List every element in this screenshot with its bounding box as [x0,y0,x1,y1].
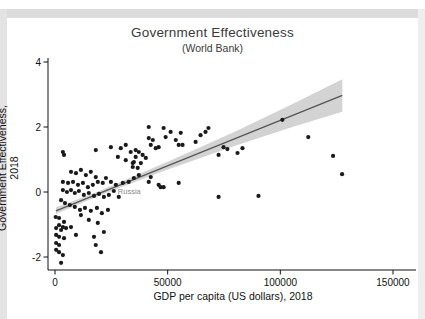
scatter-point [203,130,207,134]
scatter-point [96,180,100,184]
y-tick-label: 4 [35,57,41,68]
scatter-point [87,218,91,222]
scatter-point [136,166,140,170]
scatter-point [96,221,100,225]
scatter-point [73,191,77,195]
x-tick-label: 150000 [376,277,410,288]
scatter-point [82,193,86,197]
scatter-point [79,213,83,217]
scatter-point [174,138,178,142]
scatter-point [76,183,80,187]
scatter-point [147,136,151,140]
scatter-point [162,185,166,189]
scatter-point [104,176,108,180]
scatter-point [89,209,93,213]
scatter-point [331,154,335,158]
scatter-point [101,181,105,185]
scatter-point [168,130,172,134]
scatter-point [221,145,225,149]
scatter-point [177,181,181,185]
y-tick-label: -2 [32,252,41,263]
scatter-point [94,243,98,247]
scatter-point [164,135,168,139]
scatter-point [107,193,111,197]
scatter-point [92,235,96,239]
scatter-point [132,176,136,180]
scatter-point [79,168,83,172]
scatter-point [81,181,85,185]
scatter-point [66,181,70,185]
scatter-point [64,226,68,230]
scatter-point [78,208,82,212]
scatter-point [69,225,73,229]
scatter-point [177,143,181,147]
y-tick-label: 2 [35,122,41,133]
scatter-point [71,180,75,184]
chart-title: Government Effectiveness [0,25,425,40]
scatter-point [129,150,133,154]
scatter-point [99,250,103,254]
scatter-point [94,148,98,152]
scatter-point [132,160,136,164]
scatter-point [54,226,58,230]
scatter-point [57,216,61,220]
scatter-point [194,140,198,144]
scatter-point [92,194,96,198]
scatter-point [97,192,101,196]
scatter-point [137,173,141,177]
scatter-point [235,151,239,155]
scatter-point [162,126,166,130]
scatter-point [62,220,66,224]
scatter-point [61,188,65,192]
scatter-point [198,133,202,137]
scatter-point [83,206,87,210]
scatter-point [134,155,138,159]
scatter-point [124,158,128,162]
scatter-point [59,228,63,232]
scatter-point [340,172,344,176]
scatter-point [59,198,63,202]
scatter-point [57,243,61,247]
scatter-point [100,211,104,215]
scatter-point [68,203,72,207]
scatter-point [86,185,90,189]
scatter-point [147,180,151,184]
x-tick-label: 100000 [264,277,298,288]
scatter-point [63,201,67,205]
scatter-point [180,143,184,147]
scatter-point [69,188,73,192]
scatter-point [62,236,66,240]
scatter-point [137,150,141,154]
scatter-point [306,135,310,139]
scatter-point [109,145,113,149]
scatter-point [65,190,69,194]
scatter-point [57,250,61,254]
scatter-point [84,173,88,177]
scatter-point [112,189,116,193]
scatter-point [149,143,153,147]
scatter-point [73,205,77,209]
scatter-point [179,131,183,135]
scatter-point [74,171,78,175]
scatter-point [141,153,145,157]
stata-graph-window: Russia420-2050000100000150000 Government… [0,0,425,319]
scatter-point [151,138,155,142]
scatter-point [256,194,260,198]
scatter-point [119,146,123,150]
scatter-point [95,206,99,210]
scatter-point [77,189,81,193]
scatter-point [89,170,93,174]
scatter-point [131,165,135,169]
scatter-point [157,145,161,149]
scatter-point [206,126,210,130]
scatter-point [109,180,113,184]
scatter-point [225,147,229,151]
scatter-point [61,180,65,184]
scatter-point [61,253,65,257]
scatter-point [149,175,153,179]
scatter-point [147,125,151,129]
chart-subtitle: (World Bank) [0,42,425,54]
scatter-point [61,150,65,154]
scatter-point [91,183,95,187]
scatter-point [69,170,73,174]
